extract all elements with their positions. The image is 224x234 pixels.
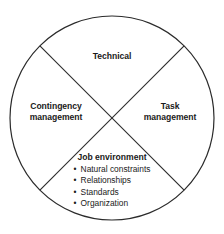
quadrant-label-task-line2: management bbox=[144, 112, 197, 122]
quadrant-label-task-line1: Task bbox=[161, 101, 180, 111]
quadrant-label-contingency-line1: Contingency bbox=[30, 101, 82, 111]
quadrant-label-task-management: Task management bbox=[122, 101, 218, 122]
quadrant-label-contingency-management: Contingency management bbox=[8, 101, 104, 122]
list-item-label: Relationships bbox=[81, 175, 131, 185]
list-item-label: Organization bbox=[81, 198, 129, 208]
bullet-icon: • bbox=[74, 187, 77, 199]
list-item: • Standards bbox=[74, 187, 151, 199]
job-environment-heading: Job environment bbox=[0, 152, 224, 163]
quadrant-label-job-environment: Job environment • Natural constraints • … bbox=[0, 152, 224, 210]
quadrant-label-technical-text: Technical bbox=[93, 51, 132, 61]
list-item-label: Standards bbox=[81, 187, 119, 197]
quadrant-label-contingency-line2: management bbox=[30, 112, 83, 122]
list-item-label: Natural constraints bbox=[81, 164, 151, 174]
bullet-icon: • bbox=[74, 198, 77, 210]
job-environment-bullet-list: • Natural constraints • Relationships • … bbox=[74, 164, 151, 210]
list-item: • Organization bbox=[74, 198, 151, 210]
bullet-icon: • bbox=[74, 164, 77, 176]
bullet-icon: • bbox=[74, 175, 77, 187]
list-item: • Relationships bbox=[74, 175, 151, 187]
quadrant-label-technical: Technical bbox=[0, 51, 224, 62]
quadrant-circle-diagram: Technical Contingency management Task ma… bbox=[0, 0, 224, 234]
list-item: • Natural constraints bbox=[74, 164, 151, 176]
